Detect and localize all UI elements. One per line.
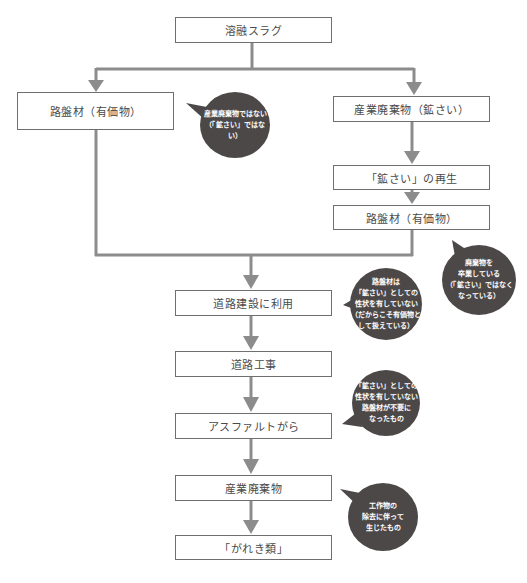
callout-text: 路盤材は 「鉱さい」としての 性状を有していない （だからこそ有価物と して扱え…: [351, 277, 421, 332]
node-rubble: 「がれき類」: [175, 535, 332, 560]
callout-not-waste: 産業廃棄物ではない （「鉱さい」ではない）: [200, 92, 270, 158]
node-slag-recycling: 「鉱さい」の再生: [333, 165, 490, 190]
callout-no-slag-properties: 路盤材は 「鉱さい」としての 性状を有していない （だからこそ有価物と して扱え…: [350, 268, 422, 340]
arrowhead-center-5: [243, 520, 259, 534]
node-label: 産業廃棄物（鉱さい）: [354, 101, 469, 117]
node-label: 「がれき類」: [219, 540, 288, 556]
arrowhead-center-1: [243, 275, 259, 289]
arrowhead-center-4: [243, 459, 259, 474]
callout-unneeded-roadbed: 「鉱さい」としての 性状を有していない 路盤材が不要に なったもの: [352, 370, 420, 436]
node-molten-slag: 溶融スラグ: [175, 17, 332, 43]
node-road-construction-use: 道路建設に利用: [175, 290, 332, 316]
node-label: 溶融スラグ: [225, 22, 283, 38]
node-label: 路盤材（有価物）: [366, 210, 458, 226]
callout-text: 「鉱さい」としての 性状を有していない 路盤材が不要に なったもの: [355, 381, 418, 425]
node-industrial-waste: 産業廃棄物: [175, 475, 332, 501]
arrowhead-center-2: [243, 336, 259, 350]
callout-from-removal: 工作物の 除去に伴って 生じたもの: [348, 483, 418, 551]
callout-text: 産業廃棄物ではない （「鉱さい」ではない）: [200, 109, 270, 142]
arrowhead-center-3: [243, 397, 259, 412]
node-label: 「鉱さい」の再生: [366, 170, 458, 186]
node-industrial-waste-slag: 産業廃棄物（鉱さい）: [333, 96, 490, 122]
node-label: 路盤材（有価物）: [50, 103, 142, 119]
node-label: アスファルトがら: [208, 418, 300, 434]
arrowhead-right: [406, 82, 422, 95]
arrowhead-right-3: [404, 192, 420, 204]
arrowhead-left: [88, 80, 104, 92]
node-roadbed-right: 路盤材（有価物）: [333, 205, 490, 230]
node-road-work: 道路工事: [175, 351, 332, 377]
node-asphalt-debris: アスファルトがら: [175, 413, 332, 439]
callout-text: 工作物の 除去に伴って 生じたもの: [362, 501, 404, 534]
callout-text: 廃棄物を 卒業している （「鉱さい」ではなく なっている）: [446, 258, 513, 302]
node-roadbed-left: 路盤材（有価物）: [17, 92, 174, 130]
node-label: 産業廃棄物: [225, 480, 283, 496]
callout-graduated-waste: 廃棄物を 卒業している （「鉱さい」ではなく なっている）: [442, 245, 516, 315]
flow-diagram: 溶融スラグ 路盤材（有価物） 産業廃棄物（鉱さい） 「鉱さい」の再生 路盤材（有…: [0, 0, 527, 583]
node-label: 道路工事: [231, 356, 277, 372]
arrowhead-right-2: [404, 151, 420, 164]
node-label: 道路建設に利用: [213, 295, 294, 311]
